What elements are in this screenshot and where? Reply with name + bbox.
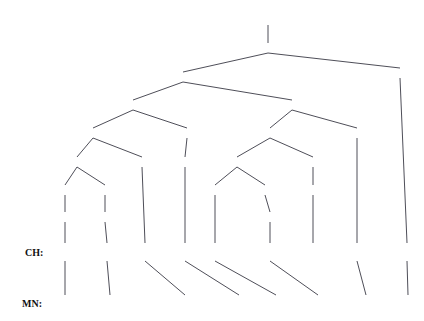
edge-np1-qp0 xyxy=(237,138,270,157)
edge-np0-ip1 xyxy=(65,167,77,185)
mongolian-row-label: MN: xyxy=(22,298,42,309)
alignline-4 xyxy=(215,261,276,295)
chinese-row-label: CH: xyxy=(25,247,43,258)
alignline-6 xyxy=(357,261,366,295)
alignline-5 xyxy=(270,261,318,295)
edge-vp1-vp4 xyxy=(133,110,187,128)
edge-vp1-vp3 xyxy=(93,110,133,128)
leafline-ch1 xyxy=(105,222,107,243)
edge-ip0-vp0 xyxy=(183,53,268,72)
constituent-edges xyxy=(65,25,400,212)
edge-vp0-vp1 xyxy=(133,82,183,100)
edge-np0-np3 xyxy=(77,167,105,185)
leafline-ch2 xyxy=(142,167,145,243)
leafline-ch8 xyxy=(400,78,407,243)
leaf-connector-lines xyxy=(65,78,407,243)
edge-vp3-np0 xyxy=(77,138,93,157)
alignline-1 xyxy=(107,261,110,295)
tree-edges-layer xyxy=(0,0,424,321)
edge-qp0-clp0 xyxy=(237,167,265,185)
edge-vp2-np1 xyxy=(270,110,292,128)
edge-qp0-cd0 xyxy=(215,167,237,185)
alignline-3 xyxy=(185,261,239,295)
edge-clp0-m0 xyxy=(265,195,270,212)
parse-tree-figure: CH: MN: xyxy=(0,0,424,321)
edge-vp4-vv1 xyxy=(185,138,187,157)
edge-vp2-vv3 xyxy=(292,110,357,128)
edge-vp3-vv0 xyxy=(93,138,142,157)
alignline-2 xyxy=(145,261,185,295)
alignline-7 xyxy=(407,261,408,295)
edge-np1-np2 xyxy=(270,138,313,157)
edge-vp0-vp2 xyxy=(183,82,292,100)
edge-ip0-pu0 xyxy=(268,53,400,68)
ch-mn-alignment-lines xyxy=(65,261,408,295)
